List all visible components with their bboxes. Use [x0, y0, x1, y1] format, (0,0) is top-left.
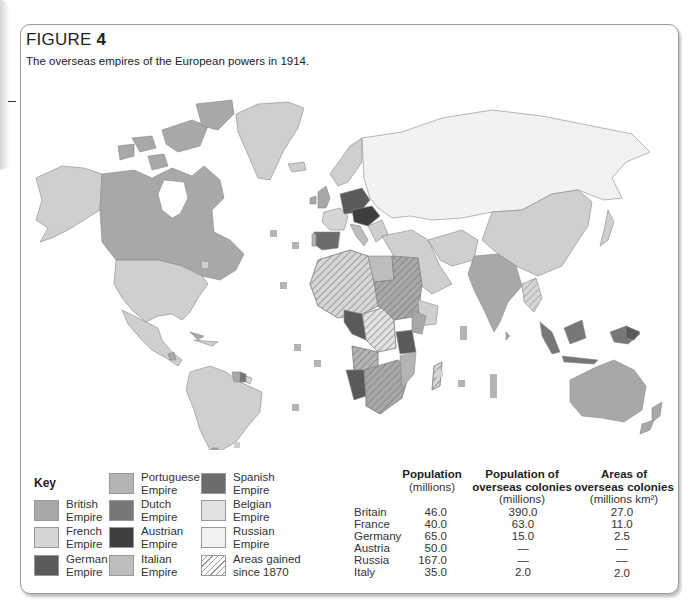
empire-statistics-table: Population (millions) Population of over…	[0, 0, 688, 606]
header-colony-population: Population of overseas colonies (million…	[472, 468, 572, 506]
header-population: Population (millions)	[400, 468, 464, 493]
header-colony-area: Areas of overseas colonies (millions km²…	[574, 468, 674, 506]
